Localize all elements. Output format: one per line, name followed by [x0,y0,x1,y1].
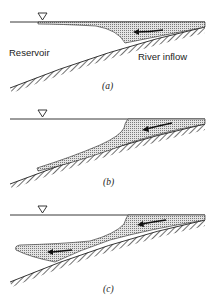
reservoir-label: Reservoir [9,47,50,58]
interflow-current [16,215,206,262]
panel-b-caption: (b) [103,177,114,188]
reservoir-density-current-diagram: Reservoir River inflow (a) (b) (c) [0,0,215,304]
water-surface-triangle-icon [38,206,47,213]
panel-a: Reservoir River inflow (a) [9,13,205,93]
river-inflow-label: River inflow [138,51,187,62]
water-surface-triangle-icon [38,110,47,117]
panel-a-caption: (a) [102,81,113,92]
underflow-current [37,119,205,171]
panel-c: (c) [10,206,205,295]
panel-b: (b) [10,110,205,189]
water-surface-triangle-icon [38,13,47,20]
panel-c-caption: (c) [103,284,114,295]
